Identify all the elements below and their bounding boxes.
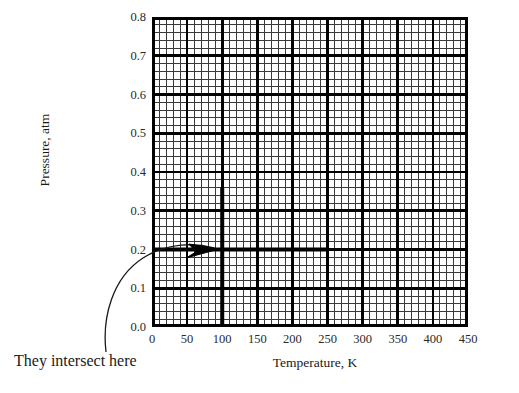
y-tick-label: 0.5 (106, 127, 146, 139)
y-tick-label: 0.6 (106, 89, 146, 101)
x-tick-label: 50 (167, 333, 207, 345)
y-axis-tick-labels: 0.00.10.20.30.40.50.60.70.8 (104, 17, 146, 327)
x-tick-label: 0 (132, 333, 172, 345)
y-axis-title: Pressure, atm (37, 75, 53, 225)
y-tick-label: 0.4 (106, 166, 146, 178)
grid-and-data-svg (152, 17, 468, 327)
x-tick-label: 300 (343, 333, 383, 345)
x-tick-label: 250 (308, 333, 348, 345)
y-tick-label: 0.8 (106, 11, 146, 23)
x-tick-label: 400 (413, 333, 453, 345)
x-axis-title: Temperature, K (210, 355, 420, 371)
plot-area (152, 17, 468, 327)
y-tick-label: 0.1 (106, 282, 146, 294)
annotation-label: They intersect here (14, 352, 137, 370)
x-axis-tick-labels: 050100150200250300350400450 (152, 333, 468, 349)
x-tick-label: 350 (378, 333, 418, 345)
x-tick-label: 150 (237, 333, 277, 345)
y-tick-label: 0.7 (106, 50, 146, 62)
x-tick-label: 100 (202, 333, 242, 345)
y-tick-label: 0.2 (106, 244, 146, 256)
x-tick-label: 200 (272, 333, 312, 345)
y-tick-label: 0.0 (106, 321, 146, 333)
y-tick-label: 0.3 (106, 205, 146, 217)
x-tick-label: 450 (448, 333, 488, 345)
figure-container: 0.00.10.20.30.40.50.60.70.8 050100150200… (0, 0, 519, 393)
